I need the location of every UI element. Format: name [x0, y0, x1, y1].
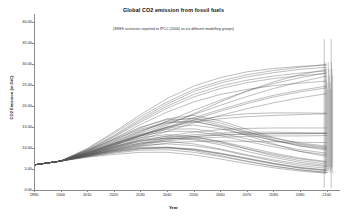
x-tick-label: 2030 — [128, 193, 152, 197]
x-tick-label: 2080 — [261, 193, 285, 197]
x-tick-label: 2100 — [315, 193, 339, 197]
x-tick-label: 2000 — [49, 193, 73, 197]
x-tick-label: 2040 — [155, 193, 179, 197]
x-tick-mark — [114, 190, 115, 192]
x-tick-label: 2010 — [75, 193, 99, 197]
x-tick-mark — [247, 190, 248, 192]
y-axis-label: CO2 Emission (in GtC) — [9, 43, 14, 153]
x-tick-mark — [273, 190, 274, 192]
x-tick-mark — [140, 190, 141, 192]
x-axis-ticks: 1990200020102020203020402050206020702080… — [0, 0, 347, 222]
x-tick-mark — [34, 190, 35, 192]
x-tick-label: 2060 — [208, 193, 232, 197]
x-tick-label: 2090 — [288, 193, 312, 197]
y-tick-mark — [32, 127, 34, 128]
y-tick-mark — [32, 43, 34, 44]
x-tick-label: 2070 — [235, 193, 259, 197]
x-tick-mark — [220, 190, 221, 192]
y-tick-mark — [32, 64, 34, 65]
x-tick-mark — [87, 190, 88, 192]
x-tick-mark — [300, 190, 301, 192]
chart-figure: Global CO2 emission from fossil fuels (S… — [0, 0, 347, 222]
x-tick-label: 1990 — [22, 193, 46, 197]
x-tick-label: 2020 — [102, 193, 126, 197]
x-tick-mark — [61, 190, 62, 192]
x-tick-mark — [167, 190, 168, 192]
x-axis-label: Year — [0, 205, 347, 210]
y-tick-mark — [32, 106, 34, 107]
y-tick-mark — [32, 148, 34, 149]
x-tick-label: 2050 — [182, 193, 206, 197]
x-tick-mark — [327, 190, 328, 192]
y-tick-mark — [32, 190, 34, 191]
y-tick-mark — [32, 22, 34, 23]
x-tick-mark — [194, 190, 195, 192]
y-tick-mark — [32, 85, 34, 86]
y-tick-mark — [32, 169, 34, 170]
